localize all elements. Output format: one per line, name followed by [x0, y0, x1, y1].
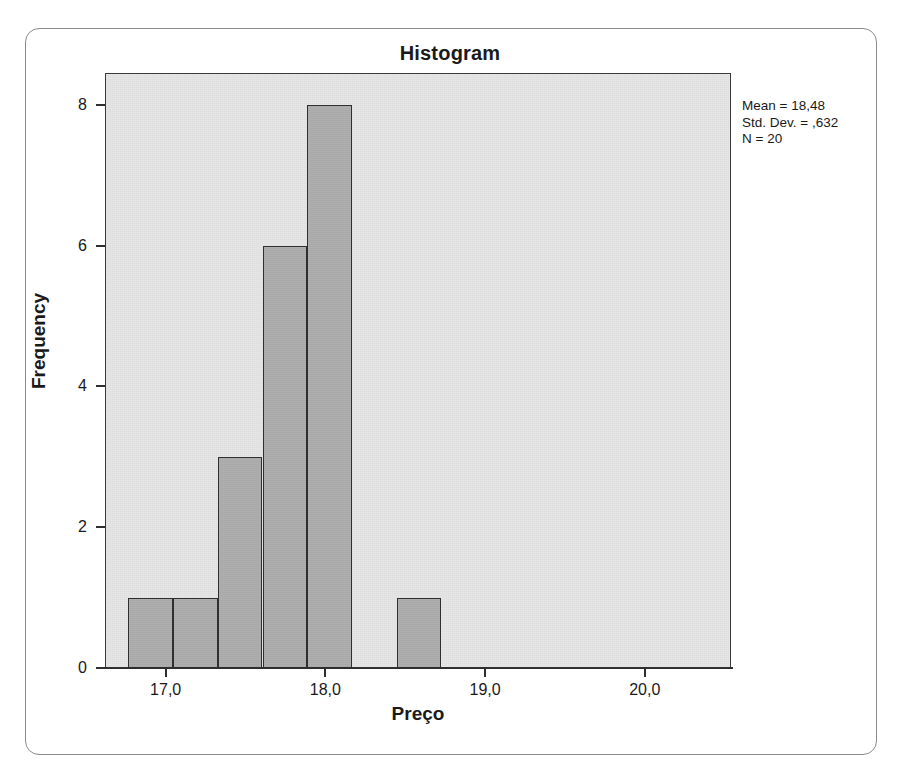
x-tick-label: 19,0: [450, 681, 520, 699]
stat-mean: Mean = 18,48: [742, 98, 838, 115]
histogram-bar: [307, 105, 352, 668]
stat-n: N = 20: [742, 131, 838, 148]
histogram-figure: Histogram 02468 17,018,019,020,0 Frequen…: [0, 0, 900, 775]
x-axis-line: [105, 667, 733, 669]
histogram-bar: [397, 598, 442, 668]
y-tick-mark: [96, 667, 105, 669]
y-tick-mark: [96, 245, 105, 247]
y-tick-mark: [96, 385, 105, 387]
y-tick-mark: [96, 526, 105, 528]
histogram-bar: [128, 598, 173, 668]
histogram-bar: [218, 457, 263, 668]
x-axis-title: Preço: [105, 703, 731, 725]
y-tick-label: 0: [47, 660, 87, 676]
y-tick-label: 2: [47, 519, 87, 535]
histogram-bar: [173, 598, 218, 668]
x-tick-mark: [644, 668, 646, 677]
x-tick-mark: [165, 668, 167, 677]
statistics-annotation: Mean = 18,48 Std. Dev. = ,632 N = 20: [742, 98, 838, 148]
y-tick-mark: [96, 104, 105, 106]
x-tick-label: 20,0: [610, 681, 680, 699]
x-tick-label: 18,0: [290, 681, 360, 699]
stat-std-dev: Std. Dev. = ,632: [742, 115, 838, 132]
x-tick-mark: [324, 668, 326, 677]
y-axis-title: Frequency: [28, 241, 50, 441]
x-tick-label: 17,0: [131, 681, 201, 699]
plot-area: [105, 73, 731, 668]
histogram-bar: [263, 246, 308, 668]
y-tick-label: 4: [47, 378, 87, 394]
chart-title: Histogram: [0, 42, 900, 65]
y-tick-label: 8: [47, 97, 87, 113]
y-tick-label: 6: [47, 238, 87, 254]
x-tick-mark: [484, 668, 486, 677]
